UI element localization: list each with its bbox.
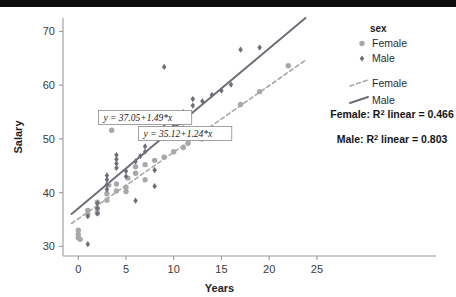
data-point xyxy=(162,64,166,70)
x-tick-label: 10 xyxy=(168,263,180,275)
data-point xyxy=(191,96,195,102)
data-point xyxy=(171,149,176,154)
data-point xyxy=(152,183,156,189)
data-point xyxy=(143,143,147,149)
equation-label: y = 37.05+1.49*x xyxy=(102,113,173,123)
series-female xyxy=(76,63,291,242)
y-tick-label: 70 xyxy=(43,25,55,37)
equation-label: y = 35.12+1.24*x xyxy=(143,129,214,139)
data-point xyxy=(142,162,147,167)
data-point xyxy=(181,145,186,150)
data-point xyxy=(76,228,81,233)
data-point xyxy=(257,44,261,50)
legend-item-female: Female xyxy=(372,37,407,49)
data-point xyxy=(161,154,166,159)
data-point xyxy=(123,185,128,190)
chart-figure: 30405060700510152025YearsSalaryy = 37.05… xyxy=(0,0,456,297)
data-point xyxy=(152,158,157,163)
x-tick-label: 20 xyxy=(263,263,275,275)
x-tick-label: 15 xyxy=(215,263,227,275)
data-point xyxy=(104,197,109,202)
data-point xyxy=(257,89,262,94)
legend-line-item-female: Female xyxy=(372,77,407,89)
data-point xyxy=(77,237,82,242)
data-point xyxy=(86,241,90,247)
legend-title: sex xyxy=(370,23,387,34)
data-point xyxy=(142,177,147,182)
x-axis-title: Years xyxy=(205,282,234,294)
y-tick-label: 60 xyxy=(43,79,55,91)
y-axis-title: Salary xyxy=(12,120,24,154)
legend-marker-diamond-icon xyxy=(360,55,364,61)
data-point xyxy=(85,208,90,213)
legend-item-male: Male xyxy=(372,52,395,64)
y-tick-label: 50 xyxy=(43,133,55,145)
data-point xyxy=(114,152,118,158)
series-male xyxy=(86,44,262,247)
data-point xyxy=(109,128,114,133)
female-r2-stat: Female: R2 linear = 0.466 xyxy=(330,108,454,121)
data-point xyxy=(133,164,138,169)
legend-line-female-icon xyxy=(350,80,368,86)
data-point xyxy=(114,181,119,186)
data-point xyxy=(238,102,243,107)
data-point xyxy=(114,188,119,193)
male-r2-stat: Male: R2 linear = 0.803 xyxy=(337,133,448,146)
legend-line-male-icon xyxy=(350,97,368,103)
y-tick-label: 30 xyxy=(43,240,55,252)
scatter-plot-svg: 30405060700510152025YearsSalaryy = 37.05… xyxy=(0,0,456,297)
data-point xyxy=(133,171,138,176)
y-tick-label: 40 xyxy=(43,187,55,199)
legend-line-item-male: Male xyxy=(372,94,395,106)
x-tick-label: 0 xyxy=(75,263,81,275)
data-point xyxy=(185,140,190,145)
data-point xyxy=(105,172,109,178)
data-point xyxy=(191,102,195,108)
legend-marker-circle-icon xyxy=(359,41,364,46)
data-point xyxy=(133,198,137,204)
data-point xyxy=(286,63,291,68)
data-point xyxy=(238,47,242,53)
data-point xyxy=(152,167,156,173)
x-tick-label: 5 xyxy=(123,263,129,275)
x-tick-label: 25 xyxy=(311,263,323,275)
